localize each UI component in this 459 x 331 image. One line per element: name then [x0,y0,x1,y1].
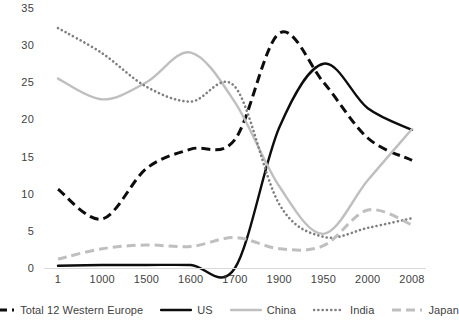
x-axis-tick-label: 1700 [222,273,247,285]
x-axis-tick-label: 1950 [311,273,336,285]
x-axis-tick-label: 1500 [134,273,159,285]
y-axis: 05101520253035 [0,0,40,280]
x-axis-line [44,268,426,269]
dashed-lightgray-line-swatch [391,305,423,315]
series-line-us [58,64,412,278]
legend-item-japan[interactable]: Japan [391,304,458,316]
legend-label-us: US [197,304,212,316]
x-axis-tick-label: 2000 [355,273,380,285]
x-axis-tick-label: 1000 [90,273,115,285]
chart-legend: Total 12 Western EuropeUSChinaIndiaJapan [0,298,442,322]
x-axis-tick-label: 1600 [178,273,203,285]
series-canvas [44,8,426,268]
y-axis-tick-label: 5 [28,225,34,237]
legend-item-us[interactable]: US [160,304,212,316]
legend-label-japan: Japan [428,304,458,316]
legend-item-total-12-western-europe[interactable]: Total 12 Western Europe [0,304,143,316]
y-axis-tick-label: 20 [21,113,34,125]
legend-label-india: India [350,304,374,316]
solid-gray-line-swatch [230,305,262,315]
legend-item-india[interactable]: India [313,304,374,316]
series-line-china [58,52,412,234]
y-axis-tick-label: 35 [21,2,34,14]
dashed-black-line-swatch [0,305,15,315]
x-axis: 110001500160017001900195020002008 [44,268,426,290]
legend-item-china[interactable]: China [230,304,296,316]
y-axis-tick-label: 10 [21,188,34,200]
legend-label-china: China [267,304,296,316]
x-axis-tick-label: 1 [55,273,61,285]
series-line-japan [58,210,412,260]
plot-area [44,8,426,268]
y-axis-tick-label: 30 [21,39,34,51]
solid-black-line-swatch [160,305,192,315]
y-axis-tick-label: 25 [21,76,34,88]
x-axis-tick-label: 1900 [267,273,292,285]
legend-label-total-12-western-europe: Total 12 Western Europe [20,304,143,316]
series-line-india [58,28,412,238]
dotted-gray-line-swatch [313,305,345,315]
y-axis-tick-label: 0 [28,262,34,274]
y-axis-tick-label: 15 [21,151,34,163]
x-axis-tick-label: 2008 [399,273,424,285]
